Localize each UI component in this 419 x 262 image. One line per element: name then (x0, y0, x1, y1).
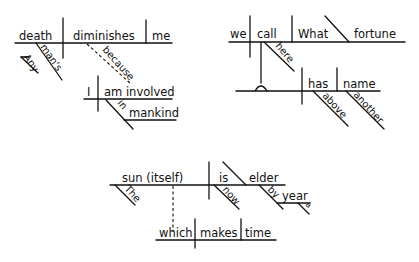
word-prep-object: mankind (129, 106, 179, 120)
word-complement: fortune (354, 27, 396, 41)
word-verb: call (257, 27, 277, 41)
word-object: me (152, 29, 170, 43)
word-mod-2: Any (21, 52, 41, 74)
word-mod-2: another (352, 89, 387, 126)
word-adverb: here (273, 40, 296, 64)
word-adverb: now (221, 184, 243, 207)
word-object: What (298, 27, 329, 41)
word-rel-verb: makes (200, 226, 238, 240)
diagram-3: sun (itself) is elder The now by year a … (110, 162, 313, 248)
word-conjunction: because (101, 44, 137, 82)
word-verb-2: has (308, 77, 328, 91)
word-verb: diminishes (73, 29, 135, 43)
word-verb: is (219, 171, 228, 185)
word-rel-pronoun: which (159, 226, 193, 240)
word-mod-1: man's (38, 42, 64, 73)
word-clause-verb: am involved (104, 85, 175, 99)
sentence-diagrams-canvas: death diminishes me man's Any because I … (0, 0, 419, 262)
word-clause-subject: I (87, 85, 90, 99)
word-rel-object: time (245, 226, 271, 240)
complement-slash (325, 16, 349, 42)
word-mod-1: above (321, 90, 350, 120)
diagram-2: we call What fortune here has name above… (229, 16, 405, 129)
word-prep-object: year (282, 189, 308, 203)
word-subject: we (230, 27, 246, 41)
word-predicate: elder (249, 171, 279, 185)
word-preposition: by (266, 184, 283, 201)
diagram-1: death diminishes me man's Any because I … (15, 18, 179, 129)
pedestal-fork (255, 86, 267, 91)
